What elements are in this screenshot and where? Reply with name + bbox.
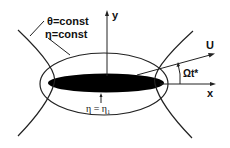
body-ellipse [48, 74, 164, 93]
angle-arc [178, 64, 180, 84]
eta-leader-line [48, 38, 70, 55]
theta-leader-line [30, 21, 44, 36]
body-surface-label: η = η₁ [86, 103, 111, 114]
body-surface-arrow-icon [100, 93, 103, 97]
y-axis-label: y [112, 10, 118, 21]
theta-const-label: θ=const [47, 16, 89, 27]
velocity-arrow-icon [208, 53, 215, 58]
x-axis-label: x [207, 88, 213, 99]
velocity-label: U [206, 40, 214, 51]
x-axis-arrow-icon [210, 82, 216, 86]
angle-label: Ωt* [183, 68, 198, 79]
velocity-line [137, 55, 210, 75]
y-axis-arrow-icon [105, 10, 109, 16]
eta-const-label: η=const [45, 29, 87, 40]
